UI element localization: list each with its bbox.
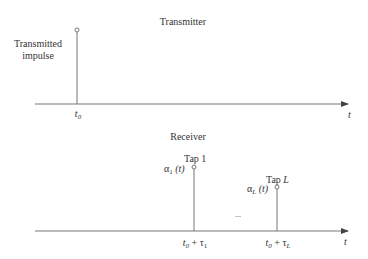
- ellipsis: ...: [235, 210, 241, 220]
- tap-1-delay-label: t0 + τ1: [183, 237, 207, 249]
- tap-L-gain: αL (t): [247, 183, 268, 195]
- transmitted-impulse-head: [75, 28, 79, 32]
- receiver-title: Receiver: [170, 131, 206, 143]
- transmitted-impulse-label-line1: Transmitted: [14, 38, 62, 50]
- tap-1-head: [192, 165, 196, 169]
- tap-L-label: Tap L: [266, 174, 289, 186]
- transmitted-impulse-label-line2: impulse: [22, 50, 54, 62]
- tap-1-gain: α1 (t): [164, 163, 185, 175]
- transmitter-title: Transmitter: [160, 16, 206, 28]
- t0-tick-label: t0: [75, 108, 81, 120]
- transmitter-axis-label: t: [348, 109, 351, 121]
- receiver-axis-label: t: [344, 236, 347, 248]
- tap-1-label: Tap 1: [184, 153, 206, 165]
- tap-L-delay-label: t0 + τL: [266, 237, 291, 249]
